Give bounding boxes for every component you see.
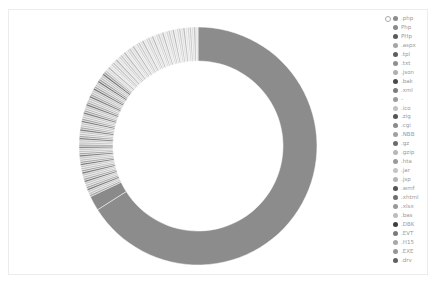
- legend-dot-icon: [393, 70, 398, 75]
- legend-dot-icon: [393, 231, 398, 236]
- legend-item[interactable]: .H15: [393, 238, 414, 247]
- legend-label: .H15: [401, 238, 414, 247]
- legend-label: .NBB: [401, 130, 414, 139]
- legend-label: .xhtml: [401, 193, 419, 202]
- legend-dot-icon: [393, 249, 398, 254]
- legend-item[interactable]: .jsp: [393, 175, 411, 184]
- legend-item[interactable]: .NBB: [393, 130, 414, 139]
- legend-label: Php: [401, 23, 411, 32]
- legend-dot-icon: [393, 204, 398, 209]
- legend-dot-icon: [393, 61, 398, 66]
- slice-minor[interactable]: [79, 146, 113, 148]
- donut-chart: [0, 0, 436, 283]
- legend-label: .drv: [401, 256, 412, 265]
- legend-item[interactable]: .php: [393, 14, 413, 23]
- legend-item[interactable]: .drv: [393, 256, 412, 265]
- legend-dot-icon: [393, 258, 398, 263]
- legend-item[interactable]: .json: [393, 68, 414, 77]
- legend-item[interactable]: .xml: [393, 86, 413, 95]
- legend-dot-icon: [393, 186, 398, 191]
- legend-item[interactable]: .wmf: [393, 184, 415, 193]
- legend-label: PHp: [401, 32, 412, 41]
- legend-item[interactable]: .cgi: [393, 121, 411, 130]
- legend-label: .php: [401, 14, 413, 23]
- legend-dot-icon: [393, 132, 398, 137]
- legend-item[interactable]: .xlsx: [393, 202, 414, 211]
- legend-dot-icon: [393, 16, 398, 21]
- legend-dot-icon: [393, 150, 398, 155]
- legend-label: .ico: [401, 104, 411, 113]
- legend-dot-icon: [393, 25, 398, 30]
- legend-label: .txt: [401, 59, 410, 68]
- legend-item[interactable]: .DBK: [393, 220, 414, 229]
- legend-label: .gzip: [401, 148, 414, 157]
- legend-item[interactable]: -: [393, 95, 403, 104]
- legend-label: .zig: [401, 112, 411, 121]
- legend-dot-icon: [393, 52, 398, 57]
- legend-item[interactable]: .aspx: [393, 41, 416, 50]
- legend-label: .xlsx: [401, 202, 414, 211]
- legend-dot-icon: [393, 168, 398, 173]
- legend-label: .gz: [401, 139, 409, 148]
- legend-dot-icon: [393, 106, 398, 111]
- legend-dot-icon: [393, 43, 398, 48]
- slice-minor[interactable]: [196, 27, 198, 61]
- legend-dot-icon: [393, 213, 398, 218]
- legend-item[interactable]: .bak: [393, 77, 413, 86]
- legend-label: .cgi: [401, 121, 411, 130]
- legend-dot-icon: [393, 195, 398, 200]
- legend-dot-icon: [393, 123, 398, 128]
- legend-item[interactable]: PHp: [393, 32, 412, 41]
- legend-dot-icon: [393, 222, 398, 227]
- legend-label: .EXE: [401, 247, 413, 256]
- legend-label: .wmf: [401, 184, 415, 193]
- legend-dot-icon: [393, 114, 398, 119]
- legend-label: .bas: [401, 211, 412, 220]
- legend-label: .EVT: [401, 229, 413, 238]
- donut-slices: [79, 27, 317, 265]
- legend-label: .aspx: [401, 41, 416, 50]
- legend-dot-icon: [393, 159, 398, 164]
- legend-item[interactable]: .ico: [393, 104, 411, 113]
- legend-item[interactable]: .tpl: [393, 50, 410, 59]
- legend-item[interactable]: .xhtml: [393, 193, 419, 202]
- legend-dot-icon: [393, 34, 398, 39]
- legend-dot-icon: [393, 97, 398, 102]
- legend-item[interactable]: .zig: [393, 112, 411, 121]
- legend-item[interactable]: .jar: [393, 166, 410, 175]
- legend-item[interactable]: .gzip: [393, 148, 414, 157]
- legend-label: .tpl: [401, 50, 410, 59]
- legend-item[interactable]: .bas: [393, 211, 412, 220]
- legend-label: .jsp: [401, 175, 411, 184]
- legend-dot-icon: [393, 141, 398, 146]
- legend-dot-icon: [393, 79, 398, 84]
- legend-toggle-icon[interactable]: [385, 16, 391, 22]
- legend-item[interactable]: Php: [393, 23, 411, 32]
- legend-label: .hta: [401, 157, 412, 166]
- legend-item[interactable]: .EXE: [393, 247, 413, 256]
- legend-label: .DBK: [401, 220, 414, 229]
- legend-label: .xml: [401, 86, 413, 95]
- legend-item[interactable]: .EVT: [393, 229, 413, 238]
- legend-label: .jar: [401, 166, 410, 175]
- legend-dot-icon: [393, 88, 398, 93]
- legend-item[interactable]: .hta: [393, 157, 412, 166]
- legend-item[interactable]: .gz: [393, 139, 409, 148]
- legend-dot-icon: [393, 177, 398, 182]
- legend-item[interactable]: .txt: [393, 59, 410, 68]
- legend-label: .json: [401, 68, 414, 77]
- legend-dot-icon: [393, 240, 398, 245]
- legend-label: -: [401, 95, 403, 104]
- legend-label: .bak: [401, 77, 413, 86]
